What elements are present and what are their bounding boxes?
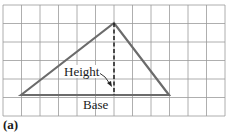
arrowhead-icon [107, 81, 112, 87]
base-label: Base [83, 98, 108, 111]
triangle-diagram [0, 0, 226, 132]
height-label: Height [63, 65, 100, 78]
panel-label: (a) [3, 118, 18, 131]
triangle [21, 23, 169, 95]
